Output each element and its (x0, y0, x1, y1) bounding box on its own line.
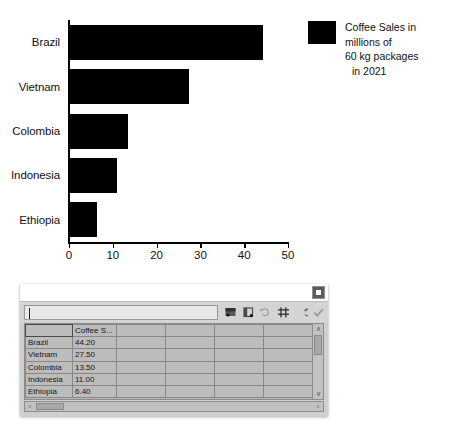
table-row: Brazil 44.20 (26, 337, 325, 349)
bar-chart: Brazil Vietnam Colombia Indonesia Ethiop… (0, 0, 457, 280)
cell-empty-2-2[interactable] (166, 361, 215, 373)
cell-empty-3-1[interactable] (117, 373, 166, 385)
legend-line-2: 60 kg packages (345, 49, 453, 64)
cell-empty-2-1[interactable] (117, 361, 166, 373)
x-axis-ticks: 0 10 20 30 40 50 (69, 242, 288, 268)
x-tick-mark-3 (200, 242, 201, 248)
delete-series-button[interactable] (294, 305, 309, 320)
cell-empty-4-3[interactable] (215, 385, 264, 397)
cell-empty-2-4[interactable] (264, 361, 313, 373)
scroll-down-icon[interactable]: ∨ (313, 389, 323, 399)
y-axis-label-0: Brazil (0, 20, 66, 64)
text-caret (29, 308, 30, 319)
table-row: Colombia 13.50 (26, 361, 325, 373)
cell-empty-4-1[interactable] (117, 385, 166, 397)
toolbar-buttons (223, 304, 326, 321)
cell-empty-1-4[interactable] (264, 349, 313, 361)
cell-empty-3-2[interactable] (166, 373, 215, 385)
cell-empty-0-2[interactable] (166, 337, 215, 349)
insert-row-button[interactable] (223, 305, 238, 320)
cell-input[interactable] (24, 305, 218, 320)
cell-category-4[interactable]: Ethiopia (26, 385, 73, 397)
x-tick-label-1: 10 (106, 249, 119, 261)
delete-row-button[interactable] (276, 305, 291, 320)
table-row: Indonesia 11.00 (26, 373, 325, 385)
header-cell-empty-4[interactable] (264, 325, 313, 337)
scroll-up-icon[interactable]: ∧ (313, 324, 323, 334)
horizontal-scrollbar[interactable]: ‹ › (24, 401, 324, 412)
cell-category-2[interactable]: Colombia (26, 361, 73, 373)
x-tick-label-4: 40 (238, 249, 251, 261)
cell-empty-1-2[interactable] (166, 349, 215, 361)
cell-empty-3-3[interactable] (215, 373, 264, 385)
cell-empty-2-3[interactable] (215, 361, 264, 373)
horizontal-scroll-thumb[interactable] (36, 403, 64, 410)
bar-colombia (69, 114, 128, 149)
header-cell-empty-1[interactable] (117, 325, 166, 337)
x-tick-mark-1 (113, 242, 114, 248)
cell-empty-0-1[interactable] (117, 337, 166, 349)
bar-ethiopia (69, 202, 97, 237)
table-row: Ethiopia 6.40 (26, 385, 325, 397)
cell-value-2[interactable]: 13.50 (73, 361, 117, 373)
cell-empty-3-4[interactable] (264, 373, 313, 385)
cell-empty-0-3[interactable] (215, 337, 264, 349)
dialog-titlebar[interactable] (20, 284, 328, 301)
accept-button[interactable] (311, 305, 326, 320)
cell-empty-4-4[interactable] (264, 385, 313, 397)
header-cell-series[interactable]: Coffee S... (73, 325, 117, 337)
legend-line-1: Coffee Sales in millions of (345, 21, 416, 48)
table-row: Vietnam 27.50 (26, 349, 325, 361)
cell-empty-1-1[interactable] (117, 349, 166, 361)
plot-area (69, 20, 288, 242)
header-cell-empty-2[interactable] (166, 325, 215, 337)
insert-series-button[interactable] (241, 305, 256, 320)
bar-vietnam (69, 69, 189, 104)
cell-empty-1-3[interactable] (215, 349, 264, 361)
cell-value-0[interactable]: 44.20 (73, 337, 117, 349)
header-cell-corner[interactable] (26, 325, 73, 337)
legend-text: Coffee Sales in millions of 60 kg packag… (345, 20, 453, 78)
vertical-scroll-thumb[interactable] (314, 335, 322, 355)
y-axis-label-2: Colombia (0, 109, 66, 153)
x-tick-mark-5 (288, 242, 289, 248)
x-tick-label-3: 30 (194, 249, 207, 261)
x-tick-label-2: 20 (150, 249, 163, 261)
x-tick-label-5: 50 (282, 249, 295, 261)
y-axis-label-4: Ethiopia (0, 198, 66, 242)
cell-category-3[interactable]: Indonesia (26, 373, 73, 385)
bar-brazil (69, 25, 263, 60)
bar-series (69, 20, 288, 242)
x-tick-mark-2 (157, 242, 158, 248)
cell-empty-4-2[interactable] (166, 385, 215, 397)
bar-slot-1 (69, 64, 288, 108)
scroll-right-icon[interactable]: › (313, 402, 323, 411)
y-axis-label-3: Indonesia (0, 153, 66, 197)
cell-category-0[interactable]: Brazil (26, 337, 73, 349)
data-grid[interactable]: Coffee S... Brazil 44.20 (24, 323, 324, 400)
table-header-row: Coffee S... (26, 325, 325, 337)
cell-value-1[interactable]: 27.50 (73, 349, 117, 361)
x-tick-mark-4 (244, 242, 245, 248)
data-grid-table: Coffee S... Brazil 44.20 (25, 324, 324, 398)
x-tick-mark-0 (69, 242, 70, 248)
cell-empty-0-4[interactable] (264, 337, 313, 349)
bar-indonesia (69, 158, 117, 193)
x-tick-label-0: 0 (66, 249, 72, 261)
header-cell-empty-3[interactable] (215, 325, 264, 337)
vertical-scrollbar[interactable]: ∧ ∨ (312, 324, 323, 399)
cell-value-3[interactable]: 11.00 (73, 373, 117, 385)
bar-slot-2 (69, 109, 288, 153)
insert-text-column-button[interactable] (258, 305, 273, 320)
close-icon[interactable] (312, 286, 325, 299)
cell-value-4[interactable]: 6.40 (73, 385, 117, 397)
scroll-left-icon[interactable]: ‹ (25, 402, 35, 411)
y-axis-label-1: Vietnam (0, 64, 66, 108)
bar-slot-3 (69, 153, 288, 197)
cell-category-1[interactable]: Vietnam (26, 349, 73, 361)
bar-slot-0 (69, 20, 288, 64)
legend-line-3: in 2021 (345, 64, 453, 79)
chart-legend: Coffee Sales in millions of 60 kg packag… (308, 20, 453, 78)
y-axis-category-labels: Brazil Vietnam Colombia Indonesia Ethiop… (0, 20, 66, 242)
bar-slot-4 (69, 198, 288, 242)
